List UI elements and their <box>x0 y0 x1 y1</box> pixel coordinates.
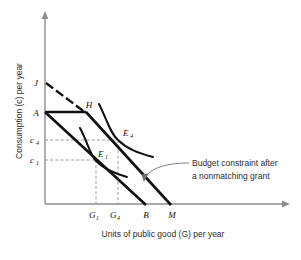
label-E4-subscript: 4 <box>130 133 133 139</box>
tick-label-G4-subscript: 4 <box>117 215 120 221</box>
tick-label-B: B <box>143 210 149 220</box>
tick-label-G4-base: G <box>110 210 117 220</box>
x-axis-arrow-icon <box>282 201 290 208</box>
y-axis-title: Consumption (c) per year <box>14 63 24 159</box>
label-E1-base: E <box>97 149 104 159</box>
tick-label-M: M <box>167 210 176 220</box>
economics-budget-constraint-chart: J A H E 4 E 1 c 4 c 1 G 1 G 4 B M <box>0 0 301 260</box>
label-E1-subscript: 1 <box>105 154 108 160</box>
tick-label-c1: c 1 <box>30 155 39 166</box>
label-H: H <box>85 100 93 110</box>
callout-line-1: Budget constraint after <box>192 158 278 168</box>
indifference-curves-group <box>80 104 153 177</box>
callout-leader-line <box>145 163 189 178</box>
y-axis-arrow-icon <box>42 11 49 19</box>
x-axis-title: Units of public good (G) per year <box>102 229 225 239</box>
tick-label-G4: G 4 <box>110 210 120 221</box>
budget-constraints-group <box>45 83 171 205</box>
tick-label-c4-subscript: 4 <box>36 140 39 146</box>
tick-label-c1-subscript: 1 <box>36 160 39 166</box>
label-E1: E 1 <box>97 149 108 160</box>
tick-label-c4-base: c <box>30 135 34 145</box>
tick-label-G1: G 1 <box>89 210 99 221</box>
label-A: A <box>32 108 39 118</box>
label-J: J <box>34 78 39 88</box>
budget-constraint-callout: Budget constraint after a nonmatching gr… <box>192 158 278 181</box>
callout-line-2: a nonmatching grant <box>192 171 270 181</box>
virtual-budget-line-J-segment <box>46 83 86 113</box>
tick-label-c1-base: c <box>30 155 34 165</box>
original-budget-constraint-A-B <box>45 112 146 205</box>
point-labels-group: J A H E 4 E 1 c 4 c 1 G 1 G 4 B M <box>30 78 176 221</box>
label-E4: E 4 <box>122 128 133 139</box>
indifference-curve-U1 <box>80 128 127 177</box>
tick-label-G1-base: G <box>89 210 96 220</box>
tick-label-c4: c 4 <box>30 135 39 146</box>
tick-label-G1-subscript: 1 <box>96 215 99 221</box>
label-E4-base: E <box>122 128 129 138</box>
guide-lines-group <box>45 140 118 204</box>
